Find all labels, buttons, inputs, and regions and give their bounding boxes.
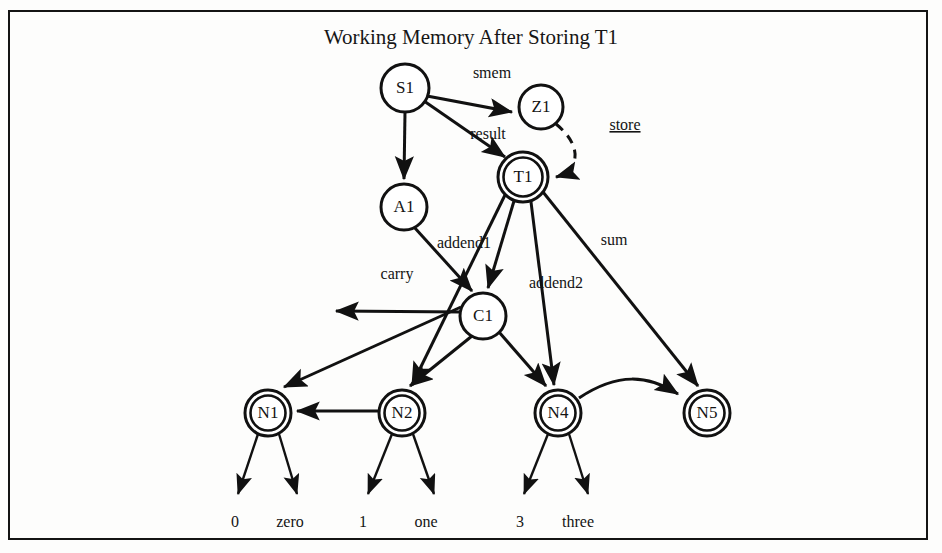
edge-n1-leaf-0 <box>238 434 258 494</box>
node-n2-label: N2 <box>392 403 413 422</box>
node-z1[interactable]: Z1 <box>519 85 563 129</box>
leaf-label-n2-one: one <box>414 513 437 530</box>
node-s1-label: S1 <box>396 78 414 97</box>
node-n1[interactable]: N1 <box>245 390 291 436</box>
node-n2[interactable]: N2 <box>379 390 425 436</box>
edge-c1-n2 <box>410 336 472 386</box>
node-a1-label: A1 <box>394 197 415 216</box>
edge-label-carry: carry <box>381 265 414 283</box>
figure-root: Working Memory After Storing T1 <box>0 0 942 553</box>
edge-n4-n5 <box>579 379 678 398</box>
node-n5-label: N5 <box>697 403 718 422</box>
edge-c1-n4 <box>499 332 546 386</box>
leaf-label-layer: 0 zero 1 one 3 three <box>231 513 594 530</box>
edge-s1-z1 <box>427 96 512 112</box>
edge-label-smem: smem <box>473 64 512 81</box>
node-z1-label: Z1 <box>532 97 551 116</box>
edge-s1-a1 <box>404 112 405 179</box>
node-n4-label: N4 <box>548 403 569 422</box>
edge-n4-leaf-three <box>569 434 588 494</box>
edge-n2-leaf-one <box>413 434 434 494</box>
node-n5[interactable]: N5 <box>684 390 730 436</box>
edge-c1-n1 <box>284 307 461 387</box>
edge-t1-n2 <box>412 195 505 385</box>
edge-t1-c1 <box>488 201 514 288</box>
node-a1[interactable]: A1 <box>381 184 427 230</box>
edge-label-store: store <box>609 116 640 133</box>
edge-z1-t1-store <box>556 124 575 177</box>
node-s1[interactable]: S1 <box>381 64 429 112</box>
edge-label-addend1: addend1 <box>437 234 491 251</box>
edge-layer <box>238 96 698 494</box>
node-c1-label: C1 <box>473 306 493 325</box>
leaf-label-n2-1: 1 <box>359 513 367 530</box>
edge-label-result: result <box>470 125 506 142</box>
edge-n4-leaf-3 <box>524 434 548 494</box>
edge-label-sum: sum <box>601 231 628 248</box>
edge-n2-leaf-1 <box>368 434 392 494</box>
leaf-label-n4-3: 3 <box>516 513 524 530</box>
node-n4[interactable]: N4 <box>535 390 581 436</box>
edge-t1-n4 <box>531 202 554 385</box>
leaf-label-n4-three: three <box>562 513 594 530</box>
node-t1[interactable]: T1 <box>498 152 548 202</box>
edge-c1-carry <box>336 311 462 312</box>
leaf-label-n1-0: 0 <box>231 513 239 530</box>
node-n1-label: N1 <box>258 403 279 422</box>
leaf-label-n1-zero: zero <box>276 513 304 530</box>
edge-label-addend2: addend2 <box>529 274 583 291</box>
node-c1[interactable]: C1 <box>460 293 506 339</box>
edge-n1-leaf-zero <box>279 434 297 494</box>
page-title: Working Memory After Storing T1 <box>324 25 618 49</box>
node-t1-label: T1 <box>514 167 533 186</box>
working-memory-graph: Working Memory After Storing T1 <box>0 0 942 553</box>
